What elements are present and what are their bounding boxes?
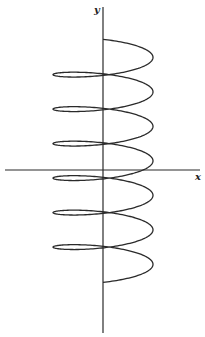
x-axis-label: x: [194, 171, 202, 182]
y-axis-label: y: [93, 4, 101, 15]
helix-figure: x y: [0, 0, 205, 337]
